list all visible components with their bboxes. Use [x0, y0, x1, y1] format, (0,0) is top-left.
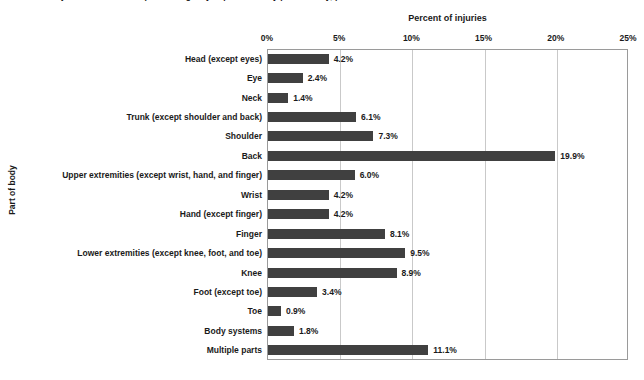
x-tick-0: 0% — [261, 33, 273, 43]
bar[interactable] — [268, 93, 288, 103]
bar-row[interactable]: Lower extremities (except knee, foot, an… — [0, 243, 644, 262]
category-label: Finger — [236, 229, 262, 239]
bar[interactable] — [268, 345, 428, 355]
bar-value-label: 19.9% — [560, 151, 584, 161]
bar-rows: Head (except eyes)4.2%Eye2.4%Neck1.4%Tru… — [0, 49, 644, 360]
bar-value-label: 9.5% — [410, 248, 429, 258]
category-label: Hand (except finger) — [180, 209, 262, 219]
bar-value-label: 4.2% — [334, 190, 353, 200]
bar[interactable] — [268, 248, 405, 258]
bar[interactable] — [268, 151, 555, 161]
category-label: Head (except eyes) — [185, 54, 262, 64]
bar[interactable] — [268, 229, 385, 239]
bar[interactable] — [268, 287, 317, 297]
bar-row[interactable]: Toe0.9% — [0, 302, 644, 321]
bar[interactable] — [268, 112, 356, 122]
x-tick-3: 15% — [475, 33, 492, 43]
bar-value-label: 8.9% — [402, 268, 421, 278]
x-axis-title: Percent of injuries — [267, 13, 628, 23]
x-tick-1: 5% — [333, 33, 345, 43]
x-tick-5: 25% — [619, 33, 636, 43]
bar-value-label: 0.9% — [286, 306, 305, 316]
bar-value-label: 4.2% — [334, 54, 353, 64]
category-label: Shoulder — [225, 131, 262, 141]
category-label: Multiple parts — [207, 345, 262, 355]
bar-row[interactable]: Knee8.9% — [0, 263, 644, 282]
category-label: Back — [242, 151, 262, 161]
category-label: Foot (except toe) — [194, 287, 262, 297]
category-label: Wrist — [241, 190, 262, 200]
category-label: Lower extremities (except knee, foot, an… — [77, 248, 262, 258]
bar-row[interactable]: Foot (except toe)3.4% — [0, 282, 644, 301]
x-tick-2: 10% — [403, 33, 420, 43]
category-label: Toe — [248, 306, 262, 316]
bar-row[interactable]: Upper extremities (except wrist, hand, a… — [0, 166, 644, 185]
category-label: Upper extremities (except wrist, hand, a… — [62, 170, 262, 180]
bar-value-label: 1.8% — [299, 326, 318, 336]
bar-value-label: 6.1% — [361, 112, 380, 122]
bar-row[interactable]: Body systems1.8% — [0, 321, 644, 340]
bar[interactable] — [268, 131, 373, 141]
bar[interactable] — [268, 73, 303, 83]
category-label: Body systems — [204, 326, 262, 336]
bar[interactable] — [268, 209, 329, 219]
x-tick-4: 20% — [547, 33, 564, 43]
bar-value-label: 3.4% — [322, 287, 341, 297]
x-axis-tick-labels: 0%5%10%15%20%25% — [267, 33, 628, 47]
bar-value-label: 8.1% — [390, 229, 409, 239]
bar-value-label: 4.2% — [334, 209, 353, 219]
bar-row[interactable]: Hand (except finger)4.2% — [0, 205, 644, 224]
bar[interactable] — [268, 268, 397, 278]
bar-row[interactable]: Trunk (except shoulder and back)6.1% — [0, 107, 644, 126]
chart-caption-cutoff: Number of injuries treated in hospital e… — [8, 0, 636, 5]
bar[interactable] — [268, 54, 329, 64]
bar-value-label: 11.1% — [433, 345, 457, 355]
bar-chart: Number of injuries treated in hospital e… — [0, 0, 644, 380]
bar-row[interactable]: Shoulder7.3% — [0, 127, 644, 146]
category-label: Knee — [241, 268, 262, 278]
bar-row[interactable]: Finger8.1% — [0, 224, 644, 243]
bar-row[interactable]: Back19.9% — [0, 146, 644, 165]
bar[interactable] — [268, 306, 281, 316]
category-label: Trunk (except shoulder and back) — [126, 112, 262, 122]
bar-row[interactable]: Head (except eyes)4.2% — [0, 49, 644, 68]
bar[interactable] — [268, 170, 355, 180]
bar-value-label: 6.0% — [360, 170, 379, 180]
bar-row[interactable]: Eye2.4% — [0, 68, 644, 87]
bar-row[interactable]: Multiple parts11.1% — [0, 341, 644, 360]
category-label: Neck — [242, 93, 262, 103]
category-label: Eye — [247, 73, 262, 83]
bar-value-label: 1.4% — [293, 93, 312, 103]
bar-value-label: 7.3% — [378, 131, 397, 141]
bar[interactable] — [268, 326, 294, 336]
bar[interactable] — [268, 190, 329, 200]
bar-row[interactable]: Neck1.4% — [0, 88, 644, 107]
bar-row[interactable]: Wrist4.2% — [0, 185, 644, 204]
bar-value-label: 2.4% — [308, 73, 327, 83]
